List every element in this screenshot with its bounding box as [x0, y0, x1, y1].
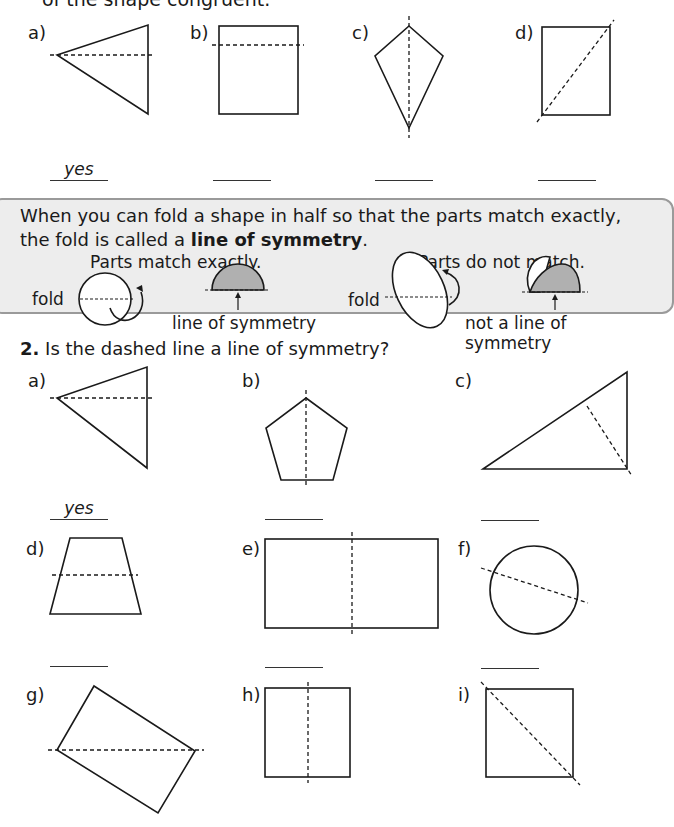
q1-shape-a — [50, 25, 155, 114]
q2-shape-i — [481, 682, 580, 785]
fold-ellipse-illustration — [381, 244, 459, 337]
q1-shape-d — [537, 20, 614, 122]
q1-shape-b — [212, 26, 304, 114]
q2-shape-c — [483, 372, 632, 476]
q2-shape-a — [50, 367, 155, 468]
q2-shape-b — [266, 390, 347, 488]
q1-shape-c — [375, 16, 443, 138]
mismatch-ellipse-illustration — [522, 256, 588, 310]
half-circle-illustration — [205, 264, 270, 310]
q2-shape-d — [50, 538, 141, 614]
q2-shape-f — [481, 546, 588, 634]
q2-shape-h — [265, 682, 350, 783]
q2-shape-g — [48, 686, 204, 813]
fold-circle-illustration — [79, 273, 143, 325]
q2-shape-e — [265, 532, 438, 635]
